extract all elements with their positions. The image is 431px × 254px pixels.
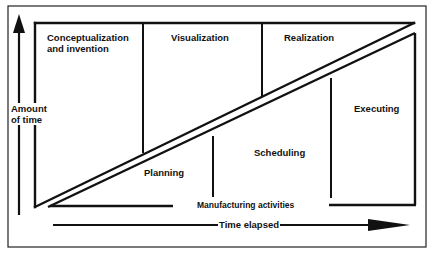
phase-label-executing: Executing bbox=[354, 103, 399, 114]
arrowhead-right-icon bbox=[368, 219, 410, 231]
phase-label-visualization: Visualization bbox=[171, 32, 229, 43]
y-axis-label: Amount of time bbox=[10, 103, 48, 125]
y-axis-label-line2: of time bbox=[11, 114, 47, 125]
manufacturing-activities-label: Manufacturing activities bbox=[197, 200, 294, 211]
y-axis-label-line1: Amount bbox=[11, 103, 47, 114]
phase-label-line: Conceptualization bbox=[47, 32, 129, 43]
x-axis-label: Time elapsed bbox=[218, 219, 280, 230]
lower-region-outline bbox=[48, 33, 416, 207]
phase-label-planning: Planning bbox=[144, 167, 184, 178]
phase-label-scheduling: Scheduling bbox=[254, 147, 305, 158]
phase-label-realization: Realization bbox=[284, 32, 334, 43]
arrowhead-up-icon bbox=[13, 14, 25, 33]
phase-label-conceptualization: Conceptualization and invention bbox=[47, 32, 129, 54]
phase-label-line: and invention bbox=[47, 43, 129, 54]
